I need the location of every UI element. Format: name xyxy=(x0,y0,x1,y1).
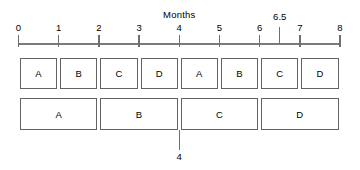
task-box-c-6[interactable]: C xyxy=(261,58,298,89)
axis-tick-8 xyxy=(339,35,341,47)
axis-tick-7 xyxy=(299,35,301,47)
axis-tick-5 xyxy=(219,35,221,47)
callout-label: 4 xyxy=(177,151,182,162)
axis-tick-label-7: 7 xyxy=(297,22,302,33)
axis-tick-label-2: 2 xyxy=(96,22,101,33)
task-box-b-1[interactable]: B xyxy=(100,98,177,130)
task-box-c-2[interactable]: C xyxy=(181,98,258,130)
marker-tick-6-5 xyxy=(279,27,281,43)
gantt-timeline-diagram: Months 012345678 6.5 ABCDABCD ABCD 4 xyxy=(0,0,360,170)
marker-label-6-5: 6.5 xyxy=(273,11,286,22)
task-box-b-5[interactable]: B xyxy=(221,58,258,89)
task-box-d-3[interactable]: D xyxy=(141,58,178,89)
axis-tick-2 xyxy=(98,35,100,47)
axis-tick-label-6: 6 xyxy=(257,22,262,33)
task-box-d-7[interactable]: D xyxy=(301,58,338,89)
task-box-a-4[interactable]: A xyxy=(181,58,218,89)
axis-tick-label-8: 8 xyxy=(337,22,342,33)
axis-tick-label-5: 5 xyxy=(217,22,222,33)
task-box-b-1[interactable]: B xyxy=(60,58,97,89)
axis-tick-3 xyxy=(138,35,140,47)
axis-tick-0 xyxy=(18,35,20,47)
axis-title: Months xyxy=(139,9,219,20)
task-box-a-0[interactable]: A xyxy=(20,58,57,89)
axis-tick-label-3: 3 xyxy=(136,22,141,33)
axis-tick-label-0: 0 xyxy=(16,22,21,33)
axis-tick-label-4: 4 xyxy=(177,22,182,33)
task-box-d-3[interactable]: D xyxy=(261,98,338,130)
axis-tick-4 xyxy=(179,35,181,47)
callout-leader-line xyxy=(179,130,180,150)
axis-tick-1 xyxy=(58,35,60,47)
axis-tick-label-1: 1 xyxy=(56,22,61,33)
task-box-c-2[interactable]: C xyxy=(100,58,137,89)
axis-tick-6 xyxy=(259,35,261,47)
task-box-a-0[interactable]: A xyxy=(20,98,97,130)
